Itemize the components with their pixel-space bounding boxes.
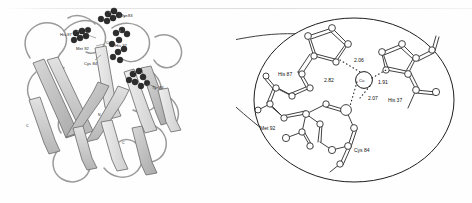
label-his87: His 87 xyxy=(278,71,292,77)
left-label-c: Met 92 xyxy=(76,46,89,51)
label-met92: Met 92 xyxy=(260,125,276,131)
left-label-g: Tyr 83 xyxy=(152,85,164,90)
distance-282: 2.82 xyxy=(324,77,334,83)
distance-206: 2.06 xyxy=(354,57,364,63)
left-label-f: His 37 xyxy=(115,43,128,48)
magnifier-circle xyxy=(254,18,454,182)
label-cys84: Cys 84 xyxy=(354,147,370,153)
ribbon-svg: Tyr 83 His 87 Met 92 Cys 84 Cu His 37 Ty… xyxy=(0,0,236,203)
copper-label: Cu xyxy=(359,78,365,83)
left-label-h: C xyxy=(26,124,29,128)
left-label-b: His 87 xyxy=(60,32,73,37)
left-label-cu: Cu xyxy=(106,41,111,45)
right-panel-active-site: Cu His 87 His 37 Cys 84 Met 92 2.06 2.82… xyxy=(236,0,472,203)
left-label-d: Cys 84 xyxy=(84,61,98,66)
left-label-j: C xyxy=(122,141,125,145)
active-site-svg: Cu His 87 His 37 Cys 84 Met 92 2.06 2.82… xyxy=(236,0,472,203)
distance-207: 2.07 xyxy=(368,95,378,101)
distance-191: 1.91 xyxy=(378,79,388,85)
left-panel-ribbon: Tyr 83 His 87 Met 92 Cys 84 Cu His 37 Ty… xyxy=(0,0,236,203)
figure-container: Tyr 83 His 87 Met 92 Cys 84 Cu His 37 Ty… xyxy=(0,0,472,203)
left-label-a: Tyr 83 xyxy=(121,13,133,18)
label-his37: His 37 xyxy=(388,97,402,103)
